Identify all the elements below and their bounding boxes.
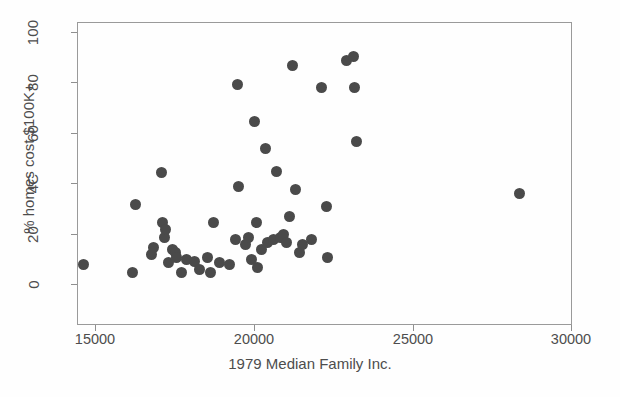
data-point bbox=[348, 51, 359, 62]
data-point bbox=[252, 262, 263, 273]
plot-area bbox=[77, 22, 572, 325]
data-point bbox=[205, 267, 216, 278]
data-point bbox=[322, 252, 333, 263]
scatter-plot-figure: % homes cost $100K+ 100 80 60 4C 20 0 15… bbox=[0, 0, 620, 397]
y-tick-label-40: 4C bbox=[0, 175, 66, 191]
data-point bbox=[78, 259, 89, 270]
data-point bbox=[290, 184, 301, 195]
y-tick-label-60: 60 bbox=[0, 125, 66, 141]
data-point bbox=[194, 264, 205, 275]
data-point bbox=[148, 242, 159, 253]
data-point bbox=[130, 199, 141, 210]
y-tick-label-100: 100 bbox=[0, 24, 66, 40]
x-tick-label-25000: 25000 bbox=[393, 331, 433, 347]
data-point bbox=[156, 167, 167, 178]
data-point bbox=[243, 232, 254, 243]
data-point bbox=[349, 82, 360, 93]
y-tick-label-80: 80 bbox=[0, 74, 66, 90]
data-point bbox=[284, 211, 295, 222]
x-axis-title: 1979 Median Family Inc. bbox=[0, 355, 620, 372]
data-point bbox=[176, 267, 187, 278]
data-point bbox=[351, 136, 362, 147]
data-point bbox=[202, 252, 213, 263]
x-tick-label-30000: 30000 bbox=[551, 331, 591, 347]
data-point bbox=[260, 143, 271, 154]
data-point bbox=[514, 188, 525, 199]
data-point bbox=[321, 201, 332, 212]
data-point bbox=[233, 181, 244, 192]
data-point bbox=[160, 224, 171, 235]
y-tick-label-0: 0 bbox=[0, 276, 66, 292]
y-tick-label-20: 20 bbox=[0, 226, 66, 242]
data-point bbox=[127, 267, 138, 278]
x-tick-label-20000: 20000 bbox=[234, 331, 274, 347]
data-point bbox=[316, 82, 327, 93]
data-point bbox=[224, 259, 235, 270]
data-point bbox=[287, 60, 298, 71]
data-point bbox=[281, 237, 292, 248]
data-point bbox=[249, 116, 260, 127]
data-point bbox=[208, 217, 219, 228]
data-point bbox=[271, 166, 282, 177]
data-point bbox=[251, 217, 262, 228]
data-point bbox=[232, 79, 243, 90]
x-tick-label-15000: 15000 bbox=[75, 331, 115, 347]
data-point bbox=[306, 234, 317, 245]
